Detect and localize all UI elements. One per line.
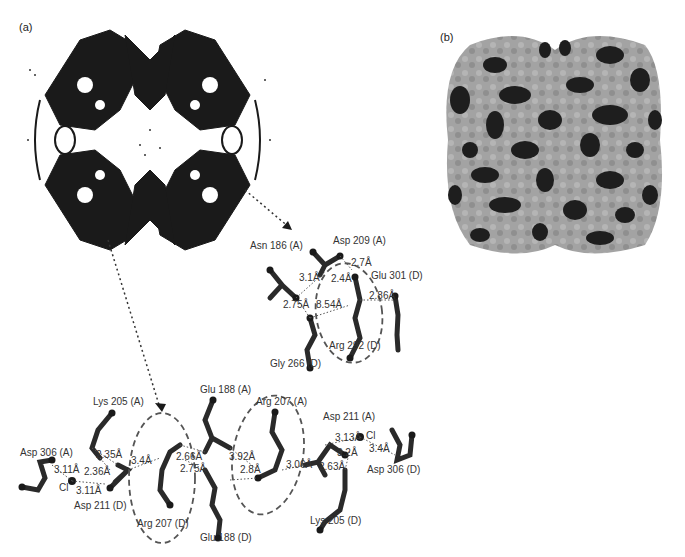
residue-label-gly266d: Gly 266 (D)	[270, 358, 321, 369]
ribbon-diagram	[27, 30, 271, 250]
arrow-to-bottom-interface	[108, 240, 166, 412]
distance-label: 2.75Å	[283, 299, 309, 310]
residue-label-arg207d: Arg 207 (D)	[137, 518, 189, 529]
residue-label-glu188a: Glu 188 (A)	[200, 384, 251, 395]
distance-label: 2.35Å	[96, 449, 122, 460]
residue-label-asp211a: Asp 211 (A)	[323, 411, 375, 422]
residue-label-asp306a: Asp 306 (A)	[20, 447, 73, 458]
distance-label: 2.4Å	[331, 273, 352, 284]
distance-label: 2.75Å	[180, 463, 206, 474]
distance-label: 8.54Å	[316, 299, 342, 310]
distance-label: 3.2Å	[337, 447, 358, 458]
arrow-to-top-interface	[245, 190, 292, 230]
residue-label-arg207a: Arg 207 (A)	[256, 396, 307, 407]
residue-label-glu188d: Glu 188 (D)	[200, 532, 252, 543]
distance-label: 3.11Å	[76, 485, 101, 496]
distance-label: 3.13Å	[335, 432, 361, 443]
distance-label: 3.92Å	[229, 451, 255, 462]
distance-label: 2.36Å	[84, 466, 110, 477]
chloride-label-left: Cl	[59, 482, 68, 493]
residue-label-asp209a: Asp 209 (A)	[333, 235, 386, 246]
distance-label: 3.06Å	[286, 459, 312, 470]
residue-label-lys205a: Lys 205 (A)	[93, 396, 144, 407]
residue-label-asp211d: Asp 211 (D)	[74, 500, 127, 511]
distance-label: 2.7Å	[351, 257, 372, 268]
chloride-label-right: Cl	[366, 430, 375, 441]
surface-model	[446, 36, 662, 253]
distance-label: 2.66Å	[176, 451, 202, 462]
top-hbonds	[296, 256, 395, 318]
residue-label-asn186a: Asn 186 (A)	[250, 240, 303, 251]
distance-label: 3.4Å	[369, 443, 390, 454]
distance-label: 3.1Å	[299, 272, 320, 283]
residue-label-asp306d: Asp 306 (D)	[367, 464, 420, 475]
residue-label-lys205d: Lys 205 (D)	[310, 515, 361, 526]
distance-label: 2.63Å	[319, 461, 345, 472]
distance-label: 2.8Å	[240, 464, 261, 475]
distance-label: 3.11Å	[54, 464, 79, 475]
distance-label: 3.4Å	[131, 455, 152, 466]
residue-label-glu301d: Glu 301 (D)	[371, 270, 423, 281]
residue-label-arg292d: Arg 292 (D)	[329, 340, 381, 351]
distance-label: 2.86Å	[369, 290, 395, 301]
